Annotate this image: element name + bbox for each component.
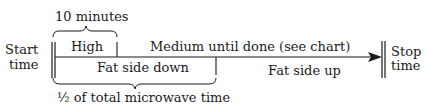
- stop-marker-icon: [382, 41, 385, 78]
- bottom-brace-icon: [53, 78, 216, 89]
- top-brace-icon: [53, 26, 117, 37]
- fat-side-up-label: Fat side up: [268, 64, 341, 78]
- top-brace-label: 10 minutes: [55, 10, 129, 24]
- stop-label-line1: Stop: [391, 45, 421, 59]
- medium-label: Medium until done (see chart): [150, 40, 350, 54]
- high-label: High: [71, 40, 103, 54]
- start-label-line2: time: [9, 58, 38, 72]
- start-marker-icon: [52, 42, 55, 78]
- stop-label-line2: time: [391, 59, 420, 73]
- microwave-timeline-diagram: 10 minutes Start time High Medium until …: [0, 0, 428, 109]
- start-label-line1: Start: [5, 43, 38, 57]
- bottom-brace-label: ½ of total microwave time: [57, 91, 230, 105]
- fat-side-down-label: Fat side down: [97, 61, 189, 75]
